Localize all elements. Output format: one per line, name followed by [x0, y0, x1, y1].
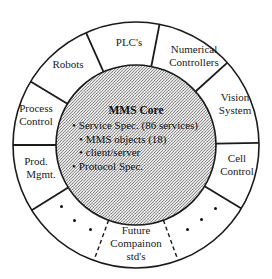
- core-item-protocol-spec: Protocol Spec.: [72, 160, 198, 174]
- segment-plcs: PLC's: [116, 36, 142, 49]
- segment-label: Prod.: [16, 155, 56, 168]
- ellipsis-dot: [214, 207, 217, 210]
- segment-label: Future: [110, 224, 161, 237]
- segment-cell-control: Cell Control: [220, 152, 254, 178]
- core-item-service-spec: Service Spec. (86 services): [72, 119, 198, 133]
- segment-label: Numerical: [169, 43, 219, 56]
- segment-vision-system: Vision System: [219, 91, 251, 117]
- segment-label: Robots: [52, 58, 83, 71]
- ellipsis-dot: [200, 218, 203, 221]
- segment-future-companion-stds: Future Compainon std's: [110, 224, 161, 263]
- segment-prod-mgmt: Prod. Mgmt.: [16, 155, 56, 181]
- ellipsis-dot: [89, 228, 92, 231]
- segment-label: Compainon: [110, 237, 161, 250]
- segment-label: Vision: [219, 91, 251, 104]
- ellipsis-dot: [60, 205, 63, 208]
- segment-label: Mgmt.: [16, 168, 56, 181]
- core-item-mms-objects: MMS objects (18): [72, 133, 198, 147]
- core-feature-list: Service Spec. (86 services) MMS objects …: [72, 119, 198, 173]
- segment-label: std's: [110, 250, 161, 263]
- segment-label: Control: [220, 165, 254, 178]
- core-title: MMS Core: [108, 104, 163, 116]
- segment-label: Control: [19, 115, 53, 128]
- segment-label: Cell: [220, 152, 254, 165]
- core-item-client-server: client/server: [72, 146, 198, 160]
- ellipsis-dot: [73, 219, 76, 222]
- segment-label: Controllers: [169, 56, 219, 69]
- segment-process-control: Process Control: [19, 102, 53, 128]
- ellipsis-dot: [186, 228, 189, 231]
- segment-label: Process: [19, 102, 53, 115]
- segment-robots: Robots: [52, 58, 83, 71]
- mms-architecture-diagram: MMS Core Service Spec. (86 services) MMS…: [0, 0, 272, 279]
- segment-numerical-controllers: Numerical Controllers: [169, 43, 219, 69]
- segment-label: PLC's: [116, 36, 142, 49]
- segment-label: System: [219, 104, 251, 117]
